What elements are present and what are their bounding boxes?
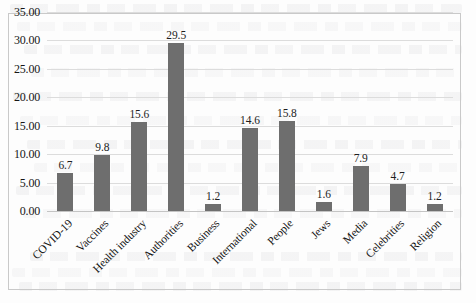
x-category-slot: Celebrities bbox=[379, 211, 416, 289]
bar-slot: 14.6 bbox=[232, 12, 269, 211]
bar[interactable] bbox=[427, 204, 443, 211]
bar-value-label: 6.7 bbox=[58, 159, 72, 171]
chart-figure: 0.005.0010.0015.0020.0025.0030.0035.00 6… bbox=[0, 0, 476, 303]
y-tick-label: 10.00 bbox=[14, 147, 40, 162]
bar-slot: 1.2 bbox=[195, 12, 232, 211]
bar[interactable] bbox=[94, 155, 110, 211]
bar-value-label: 29.5 bbox=[166, 29, 186, 41]
bar-slot: 4.7 bbox=[379, 12, 416, 211]
bar-slot: 15.8 bbox=[268, 12, 305, 211]
x-category-slot: Religion bbox=[416, 211, 453, 289]
x-category-label: People bbox=[265, 217, 295, 247]
x-category-label: Jews bbox=[308, 217, 332, 241]
bar-slot: 1.6 bbox=[305, 12, 342, 211]
bar[interactable] bbox=[57, 173, 73, 211]
y-tick-label: 20.00 bbox=[14, 90, 40, 105]
bar-slot: 7.9 bbox=[342, 12, 379, 211]
bar-slot: 15.6 bbox=[121, 12, 158, 211]
x-category-slot: International bbox=[232, 211, 269, 289]
bar[interactable] bbox=[205, 204, 221, 211]
bar[interactable] bbox=[353, 166, 369, 211]
bar-value-label: 1.2 bbox=[427, 190, 441, 202]
bar[interactable] bbox=[390, 184, 406, 211]
x-category-slot: Jews bbox=[305, 211, 342, 289]
y-tick-label: 0.00 bbox=[20, 204, 40, 219]
bar-series: 6.79.815.629.51.214.615.81.67.94.71.2 bbox=[47, 12, 453, 211]
bar-slot: 29.5 bbox=[158, 12, 195, 211]
bar-value-label: 7.9 bbox=[354, 152, 368, 164]
bar[interactable] bbox=[316, 202, 332, 211]
bar-value-label: 15.6 bbox=[129, 108, 149, 120]
bar-value-label: 4.7 bbox=[391, 170, 405, 182]
x-category-label: Media bbox=[340, 217, 369, 246]
x-axis: COVID-19VaccinesHealth industryAuthoriti… bbox=[47, 211, 453, 289]
y-axis: 0.005.0010.0015.0020.0025.0030.0035.00 bbox=[0, 12, 45, 211]
bar[interactable] bbox=[242, 128, 258, 211]
bar[interactable] bbox=[168, 43, 184, 211]
bar-slot: 6.7 bbox=[47, 12, 84, 211]
y-tick-label: 35.00 bbox=[14, 5, 40, 20]
bar-value-label: 14.6 bbox=[240, 114, 260, 126]
bar-value-label: 15.8 bbox=[277, 107, 297, 119]
y-tick-label: 15.00 bbox=[14, 118, 40, 133]
bar-value-label: 9.8 bbox=[95, 141, 109, 153]
bar-slot: 9.8 bbox=[84, 12, 121, 211]
bar[interactable] bbox=[131, 122, 147, 211]
y-tick-label: 30.00 bbox=[14, 33, 40, 48]
x-category-slot: People bbox=[268, 211, 305, 289]
plot-area: 6.79.815.629.51.214.615.81.67.94.71.2 bbox=[47, 12, 453, 211]
bar-slot: 1.2 bbox=[416, 12, 453, 211]
bar-value-label: 1.2 bbox=[206, 190, 220, 202]
bar-value-label: 1.6 bbox=[317, 188, 331, 200]
y-tick-label: 5.00 bbox=[20, 175, 40, 190]
bar[interactable] bbox=[279, 121, 295, 211]
y-tick-label: 25.00 bbox=[14, 61, 40, 76]
